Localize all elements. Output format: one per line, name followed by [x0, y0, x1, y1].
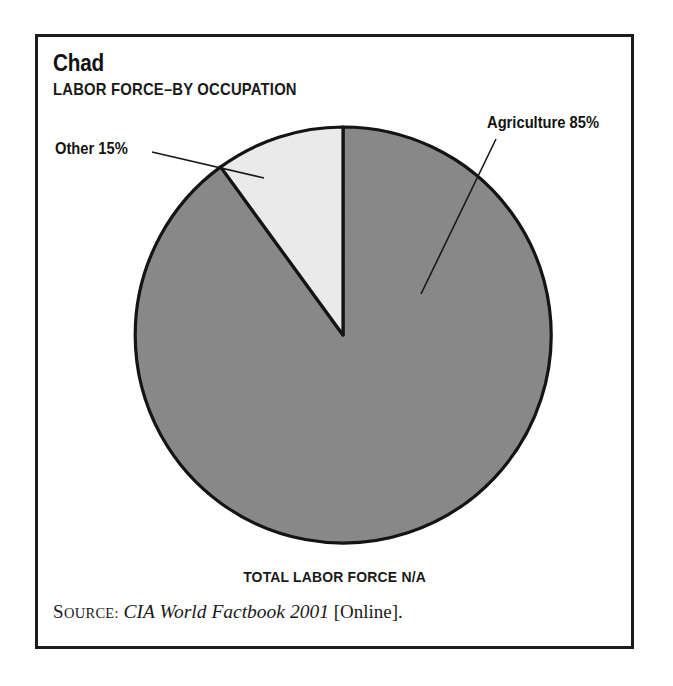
source-line: SOURCE: CIA World Factbook 2001 [Online]… — [53, 601, 403, 623]
pie-label-other: Other 15% — [55, 140, 128, 158]
source-prefix: SOURCE: — [53, 605, 119, 621]
source-publication-title: CIA World Factbook 2001 — [124, 601, 329, 622]
pie-chart-figure: Chad LABOR FORCE–BY OCCUPATION Other 15%… — [0, 0, 673, 686]
pie-label-agriculture: Agriculture 85% — [487, 114, 599, 132]
total-labor-force-text: TOTAL LABOR FORCE N/A — [243, 568, 426, 586]
source-suffix: [Online]. — [334, 601, 403, 622]
total-labor-force-label: TOTAL LABOR FORCE N/A — [35, 568, 634, 586]
